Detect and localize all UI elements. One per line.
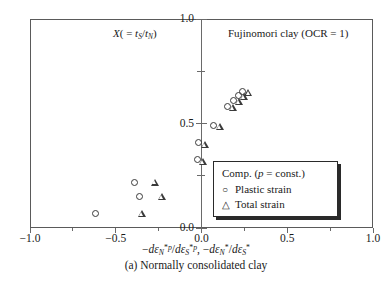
data-point-triangle <box>158 193 166 200</box>
figure-caption: (a) Normally consolidated clay <box>0 259 392 271</box>
data-point-circle <box>131 179 138 186</box>
data-point-circle <box>92 210 99 217</box>
y-tick-label: 0.5 <box>180 118 194 130</box>
data-point-triangle <box>244 89 252 96</box>
figure-scatter-plot: 0.00.51.0 −1.0−0.50.00.51.0 X( = tS/tN) … <box>0 0 392 291</box>
y-tick-minor <box>197 175 205 176</box>
x-tick-minor <box>72 228 73 231</box>
legend-label-total-strain: Total strain <box>235 198 285 210</box>
x-tick-minor <box>158 228 159 231</box>
legend-item-plastic-strain: ○ Plastic strain <box>222 183 329 195</box>
annotation-y-variable: X( = tS/tN) <box>113 27 157 41</box>
legend-item-total-strain: △ Total strain <box>222 198 329 210</box>
circle-marker-icon: ○ <box>222 184 235 195</box>
data-point-triangle <box>216 123 224 130</box>
data-point-triangle <box>229 104 237 111</box>
triangle-marker-icon: △ <box>222 199 235 210</box>
data-point-triangle <box>138 210 146 217</box>
y-tick-minor <box>197 71 205 72</box>
legend-box: Comp. (p = const.) ○ Plastic strain △ To… <box>213 161 338 217</box>
data-point-triangle <box>151 179 159 186</box>
data-point-triangle <box>201 141 209 148</box>
annotation-material: Fujinomori clay (OCR = 1) <box>228 27 348 39</box>
x-tick-minor <box>244 228 245 231</box>
x-axis-title: −dεN*p/dεS*p, −dεN*/dεS* <box>0 243 392 257</box>
legend-title: Comp. (p = const.) <box>222 167 329 179</box>
y-tick-label: 1.0 <box>180 13 194 25</box>
data-point-triangle <box>199 158 207 165</box>
y-tick-major <box>196 123 207 124</box>
y-tick-major <box>196 19 207 20</box>
x-tick-minor <box>330 228 331 231</box>
legend-label-plastic-strain: Plastic strain <box>235 183 292 195</box>
